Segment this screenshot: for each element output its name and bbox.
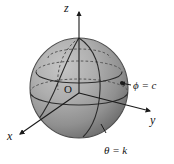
x-axis-label: x	[7, 130, 12, 142]
y-axis-label: y	[150, 114, 155, 126]
origin-label: O	[64, 84, 72, 95]
phi-equals-c-label: ϕ = c	[133, 80, 157, 91]
z-axis-label: z	[64, 2, 69, 14]
spherical-coordinates-figure: z y x O ϕ = c θ = k	[0, 0, 174, 164]
theta-equals-k-label: θ = k	[104, 145, 127, 156]
